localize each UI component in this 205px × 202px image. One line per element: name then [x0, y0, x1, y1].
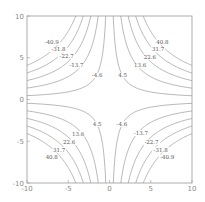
- contour-label: 4.5: [93, 121, 102, 127]
- contour-label: -4.6: [92, 72, 103, 78]
- contour-label: 40.8: [156, 39, 169, 45]
- y-tick-label: 0: [20, 96, 24, 104]
- contour-label: -40.9: [45, 39, 60, 45]
- contour-labels: -40.9-31.8-22.7-13.7-4.640.831.722.613.6…: [43, 39, 176, 160]
- contour-label: 31.7: [53, 147, 66, 153]
- contour-label: -31.8: [154, 147, 169, 153]
- contour-label: 4.5: [118, 72, 127, 78]
- contour-label: 31.7: [152, 46, 165, 52]
- contour-label: 13.6: [72, 131, 85, 137]
- contour-label: -22.7: [60, 53, 75, 59]
- y-tick-label: 10: [15, 13, 24, 21]
- contour-label: 40.8: [46, 154, 59, 160]
- y-tick-label: 5: [20, 54, 24, 62]
- contour-label: -13.7: [134, 130, 149, 136]
- contour-label: -13.7: [69, 62, 84, 68]
- y-tick-label: -10: [13, 180, 24, 188]
- contour-plot: -40.9-31.8-22.7-13.7-4.640.831.722.613.6…: [0, 0, 205, 202]
- contour-label: 22.6: [63, 139, 76, 145]
- contour-label: 13.6: [134, 62, 147, 68]
- contour-label: -31.8: [51, 46, 66, 52]
- contour-label: -40.9: [160, 154, 175, 160]
- x-tick-label: 10: [188, 185, 197, 193]
- x-tick-label: 0: [107, 185, 111, 193]
- x-tick-label: 5: [149, 185, 153, 193]
- x-axis: -10-50510: [21, 180, 196, 193]
- contour-label: -4.6: [117, 121, 128, 127]
- x-tick-label: -5: [65, 185, 72, 193]
- contour-label: -22.7: [145, 139, 160, 145]
- contour-label: 22.6: [144, 54, 157, 60]
- y-tick-label: -5: [17, 138, 24, 146]
